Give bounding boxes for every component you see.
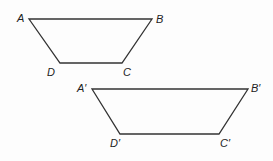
label-b-prime: B′ [251,83,260,94]
figure-canvas: A B D C A′ B′ D′ C′ [0,0,273,161]
trapezoids-svg [0,0,273,161]
label-d: D [47,67,55,78]
label-a: A [17,13,24,24]
trapezoid-abcd-prime [92,89,248,134]
label-a-prime: A′ [77,83,86,94]
label-c-prime: C′ [220,138,230,149]
trapezoid-abcd [29,19,152,63]
label-c: C [123,67,131,78]
label-b: B [156,14,163,25]
label-d-prime: D′ [110,138,120,149]
